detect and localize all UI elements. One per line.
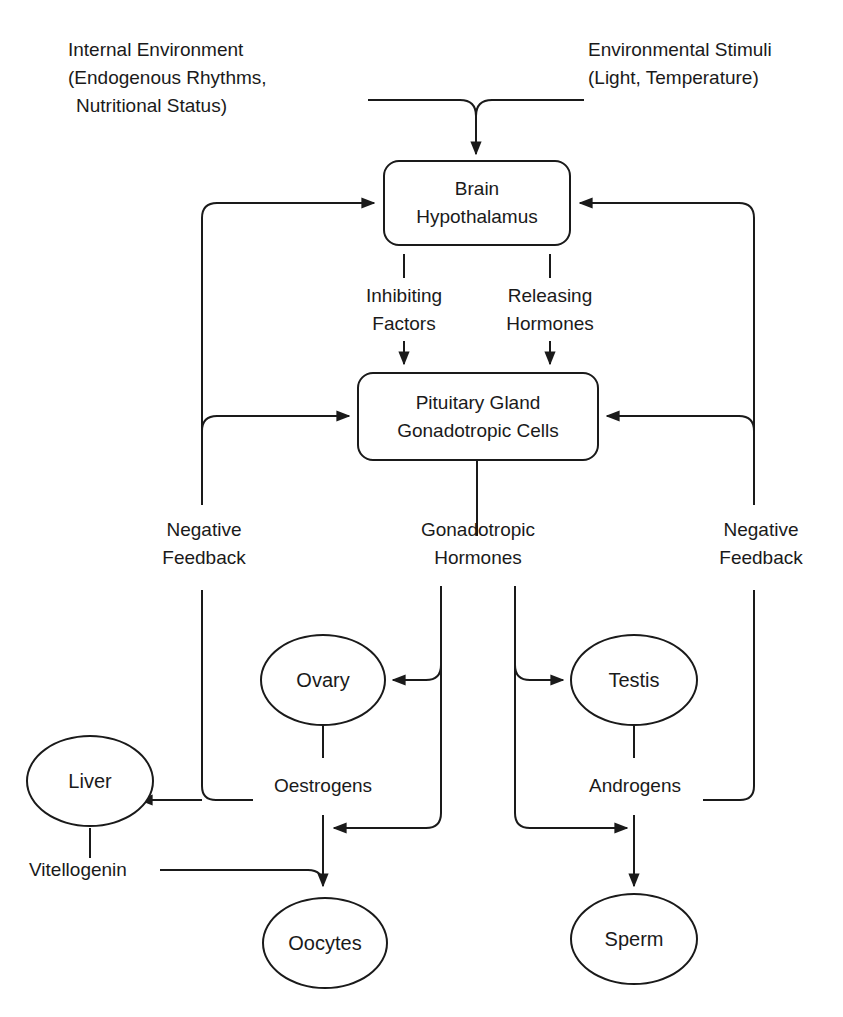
internal-line-2: (Endogenous Rhythms, bbox=[68, 64, 267, 92]
environmental-stimuli-label: Environmental Stimuli (Light, Temperatur… bbox=[588, 36, 772, 92]
inhibiting-line-2: Factors bbox=[366, 310, 442, 338]
oocytes-label: Oocytes bbox=[288, 932, 361, 955]
ovary-label: Ovary bbox=[296, 669, 349, 692]
testis-label: Testis bbox=[608, 669, 659, 692]
inhibiting-line-1: Inhibiting bbox=[366, 282, 442, 310]
brain-label: Brain bbox=[455, 175, 499, 203]
internal-line-1: Internal Environment bbox=[68, 36, 267, 64]
internal-line-3: Nutritional Status) bbox=[68, 92, 267, 120]
external-line-1: Environmental Stimuli bbox=[588, 36, 772, 64]
liver-node: Liver bbox=[26, 735, 154, 827]
releasing-line-2: Hormones bbox=[506, 310, 594, 338]
ovary-node: Ovary bbox=[260, 634, 386, 726]
releasing-hormones-label: Releasing Hormones bbox=[506, 282, 594, 338]
external-line-2: (Light, Temperature) bbox=[588, 64, 772, 92]
gonadotropic-line-1: Gonadotropic bbox=[421, 516, 535, 544]
androgens-label: Androgens bbox=[589, 772, 681, 800]
sperm-node: Sperm bbox=[570, 893, 698, 985]
oestrogens-label: Oestrogens bbox=[274, 772, 372, 800]
internal-environment-label: Internal Environment (Endogenous Rhythms… bbox=[68, 36, 267, 120]
brain-hypothalamus-node: Brain Hypothalamus bbox=[383, 160, 571, 246]
feedback-right-line-1: Negative bbox=[719, 516, 802, 544]
negative-feedback-left-label: Negative Feedback bbox=[162, 516, 245, 572]
inhibiting-factors-label: Inhibiting Factors bbox=[366, 282, 442, 338]
gonadotropic-hormones-label: Gonadotropic Hormones bbox=[421, 516, 535, 572]
vitellogenin-label: Vitellogenin bbox=[29, 856, 127, 884]
reproductive-endocrine-diagram: Internal Environment (Endogenous Rhythms… bbox=[0, 0, 843, 1017]
pituitary-label: Pituitary Gland bbox=[416, 389, 541, 417]
testis-node: Testis bbox=[570, 634, 698, 726]
feedback-left-line-1: Negative bbox=[162, 516, 245, 544]
feedback-right-line-2: Feedback bbox=[719, 544, 802, 572]
gonadotropic-cells-label: Gonadotropic Cells bbox=[397, 417, 559, 445]
negative-feedback-right-label: Negative Feedback bbox=[719, 516, 802, 572]
hypothalamus-label: Hypothalamus bbox=[416, 203, 537, 231]
feedback-left-line-2: Feedback bbox=[162, 544, 245, 572]
liver-label: Liver bbox=[68, 770, 111, 793]
pituitary-gland-node: Pituitary Gland Gonadotropic Cells bbox=[357, 372, 599, 461]
sperm-label: Sperm bbox=[605, 928, 664, 951]
gonadotropic-line-2: Hormones bbox=[421, 544, 535, 572]
oocytes-node: Oocytes bbox=[262, 897, 388, 989]
releasing-line-1: Releasing bbox=[506, 282, 594, 310]
